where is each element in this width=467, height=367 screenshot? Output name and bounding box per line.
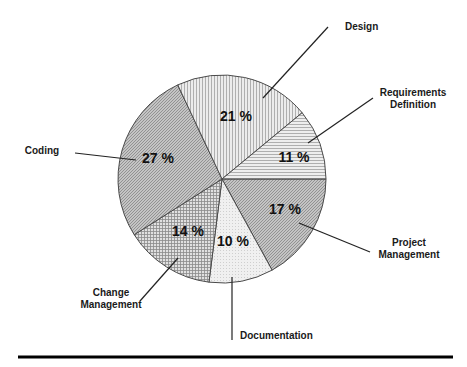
leader-line-requirements-definition xyxy=(308,98,373,143)
value-label-project-management: 17 % xyxy=(269,201,301,217)
value-label-documentation: 10 % xyxy=(217,233,249,249)
category-label-documentation: Documentation xyxy=(240,330,313,341)
pie-slices xyxy=(118,75,326,283)
value-label-design: 21 % xyxy=(220,108,252,124)
leader-line-change-management xyxy=(140,258,178,301)
leader-line-project-management xyxy=(299,223,370,252)
category-label-design: Design xyxy=(345,21,378,32)
value-label-change-management: 14 % xyxy=(172,223,204,239)
value-label-coding: 27 % xyxy=(142,150,174,166)
category-label-requirements-definition: RequirementsDefinition xyxy=(380,87,447,110)
category-label-coding: Coding xyxy=(25,145,59,156)
category-label-change-management: ChangeManagement xyxy=(80,287,142,310)
value-label-requirements-definition: 11 % xyxy=(278,149,310,165)
leader-line-design xyxy=(263,27,328,98)
category-label-project-management: ProjectManagement xyxy=(378,237,440,260)
pie-chart: 17 %10 %14 %27 %21 %11 % DesignRequireme… xyxy=(0,0,467,367)
